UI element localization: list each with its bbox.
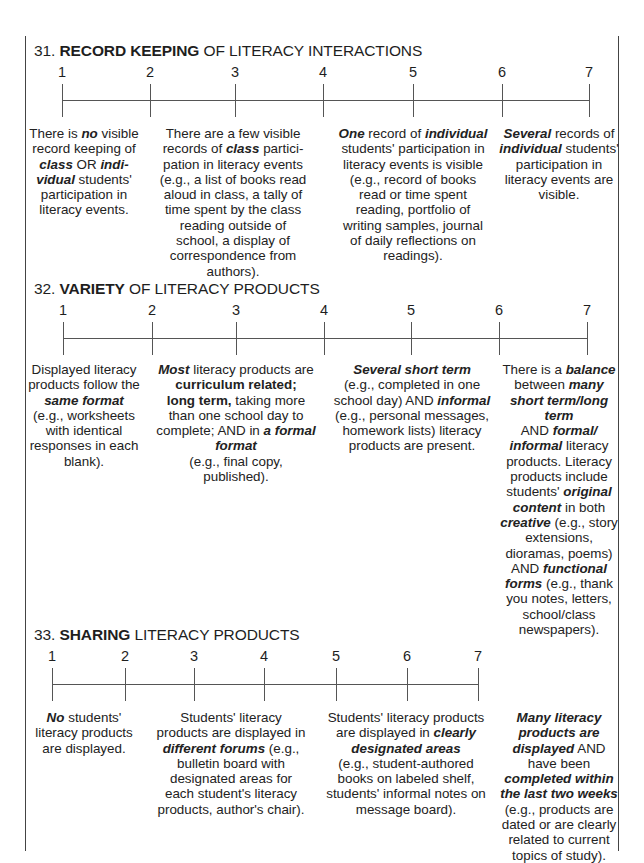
- scale-tick-2[interactable]: [152, 322, 153, 355]
- scale-number-6: 6: [498, 64, 506, 80]
- scale-tick-2[interactable]: [125, 668, 126, 701]
- scale-tick-4[interactable]: [264, 668, 265, 701]
- item-title-bold: RECORD KEEPING: [59, 42, 199, 59]
- scale-number-2: 2: [148, 302, 156, 318]
- scale-number-7: 7: [583, 302, 591, 318]
- scale-tick-6[interactable]: [407, 668, 408, 701]
- anchor-description-3: Most literacy products are curriculum re…: [156, 362, 316, 484]
- anchor-description-3: Students' literacy products are displaye…: [156, 710, 306, 817]
- anchor-description-5: Several short term(e.g., completed in on…: [332, 362, 492, 454]
- scale-line: [62, 100, 590, 101]
- scale-number-2: 2: [146, 64, 154, 80]
- scale-tick-3[interactable]: [194, 668, 195, 701]
- scale-number-1: 1: [59, 302, 67, 318]
- scale-number-5: 5: [407, 302, 415, 318]
- scale-number-1: 1: [58, 64, 66, 80]
- scale-tick-1[interactable]: [62, 84, 63, 117]
- scale-tick-3[interactable]: [236, 322, 237, 355]
- scale-number-5: 5: [409, 64, 417, 80]
- scale-number-2: 2: [121, 648, 129, 664]
- scale-number-4: 4: [320, 302, 328, 318]
- scale-tick-4[interactable]: [324, 322, 325, 355]
- scale-number-3: 3: [231, 64, 239, 80]
- scale-number-6: 6: [495, 302, 503, 318]
- scale-number-4: 4: [260, 648, 268, 664]
- scale-tick-1[interactable]: [63, 322, 64, 355]
- scale-tick-6[interactable]: [499, 322, 500, 355]
- item-number: 33.: [34, 626, 55, 643]
- scale-line: [52, 684, 478, 685]
- anchor-description-7: There is a balance between many short te…: [499, 362, 619, 637]
- item-title-rest: OF LITERACY PRODUCTS: [125, 280, 320, 297]
- anchor-description-7: Several records of individual students' …: [499, 126, 619, 202]
- anchor-description-5: Students' literacy products are displaye…: [326, 710, 486, 817]
- item-title: 31. RECORD KEEPING OF LITERACY INTERACTI…: [34, 42, 422, 60]
- anchor-description-1: No students' literacy products are displ…: [28, 710, 140, 756]
- item-title-bold: VARIETY: [59, 280, 124, 297]
- scale-tick-5[interactable]: [413, 84, 414, 117]
- scale-tick-7[interactable]: [587, 322, 588, 355]
- item-number: 32.: [34, 280, 55, 297]
- scale-number-7: 7: [585, 64, 593, 80]
- anchor-description-3: There are a few visible records of class…: [157, 126, 309, 279]
- anchor-description-1: Displayed literacy products follow the s…: [28, 362, 140, 469]
- rating-form-frame: 31. RECORD KEEPING OF LITERACY INTERACTI…: [25, 36, 619, 851]
- scale-tick-4[interactable]: [323, 84, 324, 117]
- scale-tick-5[interactable]: [411, 322, 412, 355]
- item-title-rest: LITERACY PRODUCTS: [130, 626, 299, 643]
- scale-tick-6[interactable]: [502, 84, 503, 117]
- anchor-description-7: Many literacy products are displayed AND…: [499, 710, 619, 863]
- scale-tick-1[interactable]: [52, 668, 53, 701]
- item-title: 32. VARIETY OF LITERACY PRODUCTS: [34, 280, 320, 298]
- scale-line: [63, 338, 587, 339]
- scale-tick-7[interactable]: [589, 84, 590, 117]
- item-number: 31.: [34, 42, 55, 59]
- scale-number-5: 5: [332, 648, 340, 664]
- scale-number-4: 4: [319, 64, 327, 80]
- scale-tick-7[interactable]: [478, 668, 479, 701]
- anchor-description-5: One record of individual students' parti…: [337, 126, 489, 264]
- scale-tick-5[interactable]: [336, 668, 337, 701]
- item-title-rest: OF LITERACY INTERACTIONS: [199, 42, 422, 59]
- scale-tick-2[interactable]: [150, 84, 151, 117]
- scale-number-3: 3: [232, 302, 240, 318]
- scale-number-6: 6: [403, 648, 411, 664]
- item-title: 33. SHARING LITERACY PRODUCTS: [34, 626, 300, 644]
- anchor-description-1: There is no visible record keeping of cl…: [28, 126, 140, 218]
- scale-number-1: 1: [48, 648, 56, 664]
- scale-number-7: 7: [474, 648, 482, 664]
- scale-tick-3[interactable]: [235, 84, 236, 117]
- item-title-bold: SHARING: [59, 626, 130, 643]
- scale-number-3: 3: [190, 648, 198, 664]
